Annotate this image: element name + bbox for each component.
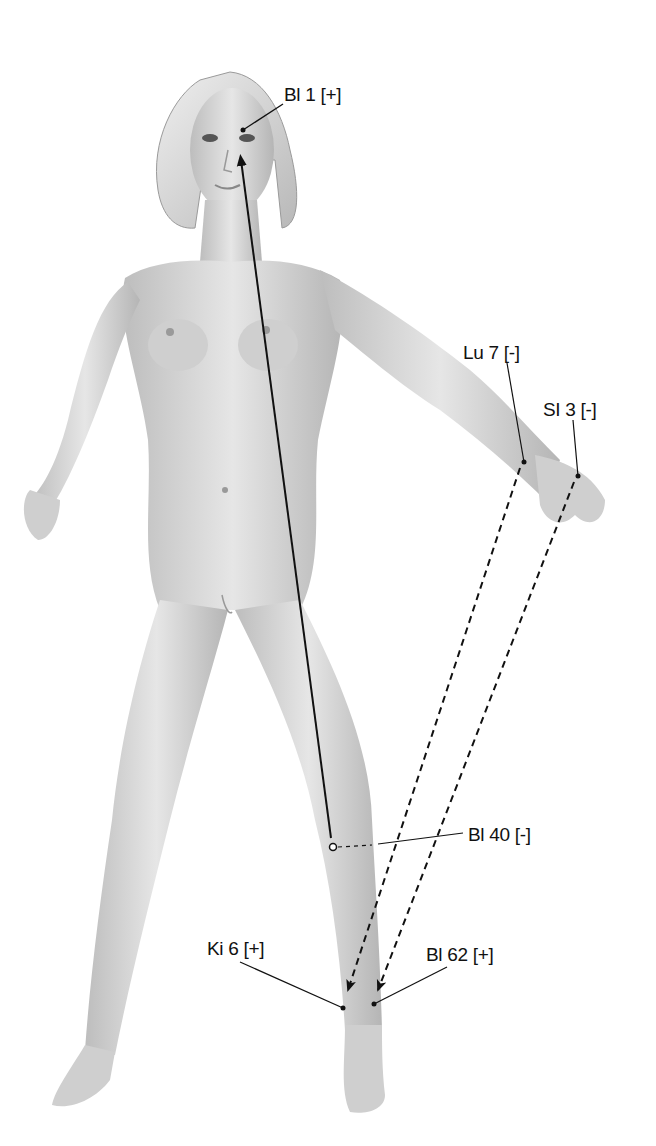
foot-right (344, 1025, 385, 1113)
label-si3: SI 3 [-] (543, 399, 597, 421)
figure-illustration (0, 0, 656, 1146)
leader-ki6 (240, 962, 343, 1008)
leader-bl40 (378, 833, 463, 844)
label-ki6: Ki 6 [+] (207, 938, 264, 960)
arrow-si3-to-bl62 (378, 482, 574, 990)
hand-right (535, 455, 605, 522)
acupuncture-diagram: Bl 1 [+] Lu 7 [-] SI 3 [-] Bl 40 [-] Ki … (0, 0, 656, 1146)
label-bl40: Bl 40 [-] (468, 824, 531, 846)
label-bl1: Bl 1 [+] (284, 84, 341, 106)
bl40-marker (330, 844, 337, 851)
leader-bl62 (374, 967, 447, 1004)
label-bl62: Bl 62 [+] (426, 944, 494, 966)
leader-si3 (573, 420, 578, 476)
arm-right (320, 270, 560, 500)
label-lu7: Lu 7 [-] (463, 342, 520, 364)
foot-left (52, 1045, 115, 1106)
leg-left (85, 600, 228, 1055)
head (190, 88, 274, 212)
torso (123, 261, 343, 610)
arm-left (30, 282, 140, 510)
